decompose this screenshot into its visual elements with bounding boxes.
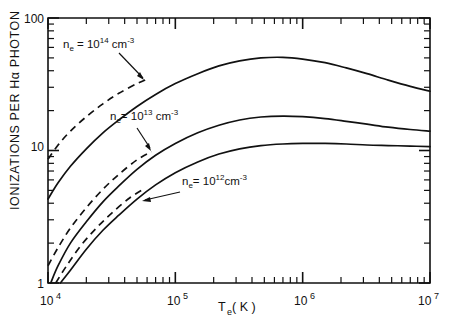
ann-ne12-unitsup: -3 — [240, 173, 248, 182]
ann-ne14-eq: = 10 — [74, 38, 100, 50]
figure-container: ne = 1014 cm-3 ne= 1013 cm-3 ne= 1012cm-… — [0, 0, 449, 329]
ann-ne13-eq: = 10 — [121, 110, 144, 122]
x-tick-10e6-mant: 10 — [294, 294, 308, 308]
x-tick-10e7-mant: 10 — [418, 294, 432, 308]
ann-ne12-unit: cm — [224, 175, 239, 187]
x-tick-10e5-mant: 10 — [167, 294, 181, 308]
ann-ne13-unit: cm — [152, 110, 171, 122]
ann-ne12-eq: = 10 — [193, 175, 216, 187]
x-tick-10e4-exp: 4 — [56, 291, 61, 301]
y-tick-label-1: 1 — [37, 277, 44, 291]
y-tick-label-10: 10 — [31, 140, 45, 154]
ann-ne14-unit: cm — [109, 38, 128, 50]
x-tick-10e4-mant: 10 — [40, 294, 54, 308]
ionizations-per-halpha-photon-chart: ne = 1014 cm-3 ne= 1013 cm-3 ne= 1012cm-… — [0, 0, 449, 329]
y-tick-label-100: 100 — [24, 12, 44, 26]
x-axis-title-unit: ( K ) — [232, 300, 256, 314]
ann-ne13-unitsup: -3 — [171, 108, 179, 117]
x-axis-title-base: T — [218, 300, 226, 314]
x-tick-10e7-exp: 7 — [434, 291, 439, 301]
y-axis-title: IONIZATIONS PER Hα PHOTON — [8, 10, 22, 210]
x-tick-10e5-exp: 5 — [183, 291, 188, 301]
ann-ne14-unitsup: -3 — [127, 36, 135, 45]
x-tick-10e6-exp: 6 — [310, 291, 315, 301]
